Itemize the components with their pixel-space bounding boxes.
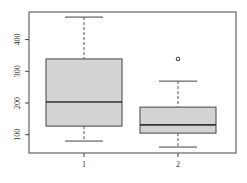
y-axis: 100200300400 (13, 34, 29, 141)
y-tick-label: 100 (13, 129, 22, 141)
iqr-box (46, 59, 122, 126)
x-axis: 12 (82, 153, 180, 169)
x-tick-label: 2 (176, 160, 180, 169)
boxes (46, 17, 216, 147)
x-tick-label: 1 (82, 160, 86, 169)
y-tick-label: 300 (13, 65, 22, 77)
outlier-point (176, 57, 180, 61)
boxplot-chart: 100200300400 12 (0, 0, 247, 183)
box-1 (46, 17, 122, 141)
iqr-box (140, 107, 216, 133)
chart-canvas: 100200300400 12 (0, 0, 247, 183)
y-tick-label: 400 (13, 34, 22, 46)
box-2 (140, 57, 216, 147)
y-tick-label: 200 (13, 97, 22, 109)
